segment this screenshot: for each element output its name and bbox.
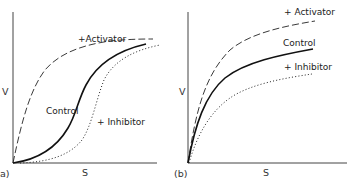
panel-b-inhibitor-label: + Inhibitor: [284, 62, 332, 72]
figure: +Activator Control + Inhibitor V S a) + …: [0, 0, 353, 181]
panel-b-y-axis-label: V: [179, 86, 186, 97]
panel-a-activator-label: +Activator: [78, 34, 126, 44]
panel-b-control-label: Control: [283, 38, 316, 48]
panel-a-activator-curve: [13, 39, 153, 163]
panel-a-inhibitor-curve: [20, 45, 160, 163]
panel-a-control-label: Control: [46, 106, 79, 116]
panel-a-x-axis-label: S: [82, 167, 88, 178]
panel-a-control-curve: [13, 44, 146, 163]
panel-a-y-axis-label: V: [2, 86, 9, 97]
panel-b-activator-label: + Activator: [284, 7, 335, 17]
panel-b-inhibitor-curve: [189, 74, 312, 163]
panel-a: +Activator Control + Inhibitor V S a): [0, 12, 160, 179]
panel-b-tag: (b): [174, 168, 187, 179]
panel-a-tag: a): [0, 168, 10, 179]
panel-b: + Activator Control + Inhibitor V S (b): [174, 7, 347, 179]
panel-b-x-axis-label: S: [263, 167, 269, 178]
panel-a-inhibitor-label: + Inhibitor: [97, 117, 145, 127]
